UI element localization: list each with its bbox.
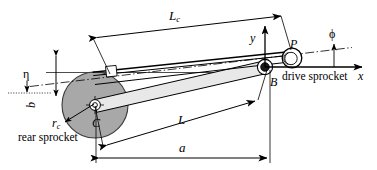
label-distance-a: a — [179, 141, 186, 154]
diagram-canvas — [0, 0, 377, 170]
label-offset-b: b — [25, 102, 37, 108]
label-axis-x: x — [358, 70, 363, 82]
label-swingarm-length-L: L — [178, 113, 185, 126]
label-drive-sprocket: drive sprocket — [282, 71, 347, 83]
label-phi-angle: ϕ — [329, 28, 335, 40]
label-sprocket-radius-rc: rc — [52, 117, 60, 131]
label-point-p: P — [290, 38, 297, 50]
label-chain-length-Lc: Lc — [169, 9, 180, 24]
right-angle-marker — [106, 65, 118, 77]
label-point-b: B — [270, 76, 277, 88]
drive-sprocket — [282, 48, 302, 68]
kinematic-diagram-figure: Lc L a b η ϕ rc C B P x y rear sprocket … — [0, 0, 377, 170]
label-axis-y: y — [250, 32, 255, 44]
label-point-c: C — [92, 117, 100, 129]
label-rear-sprocket: rear sprocket — [18, 132, 78, 144]
label-eta-angle: η — [23, 68, 29, 80]
